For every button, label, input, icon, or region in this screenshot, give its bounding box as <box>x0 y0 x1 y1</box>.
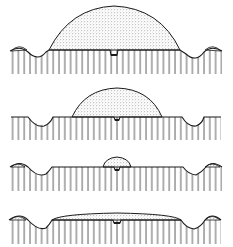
cross-section-panel-3 <box>0 150 233 200</box>
dome-mass <box>52 213 181 220</box>
cross-section-diagram <box>0 150 233 200</box>
center-notch <box>111 54 117 56</box>
ground-hatching <box>10 48 222 74</box>
cross-section-diagram <box>0 84 233 148</box>
cross-section-diagram <box>0 200 233 247</box>
dome-mass <box>72 88 162 117</box>
center-notch <box>114 222 120 224</box>
center-notch <box>115 119 119 121</box>
dome-mass <box>49 6 180 50</box>
ground-hatching <box>10 164 222 192</box>
cross-section-diagram <box>0 0 233 82</box>
figure <box>0 0 233 247</box>
cross-section-panel-4 <box>0 200 233 247</box>
center-notch <box>115 169 119 171</box>
dome-mass <box>103 157 131 167</box>
cross-section-panel-1 <box>0 0 233 82</box>
cross-section-panel-2 <box>0 84 233 148</box>
